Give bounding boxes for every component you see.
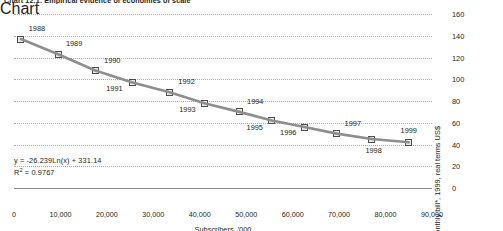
chart-title-number: Chart 12.1: xyxy=(4,0,42,4)
x-axis-tick-label: 0 xyxy=(12,210,16,219)
y-axis-tick-label: 40 xyxy=(452,140,478,149)
chart-title: Chart 12.1: Empirical evidence of econom… xyxy=(4,0,191,4)
x-axis-tick-label: 10,000 xyxy=(49,210,71,219)
y-axis-tick-label: 160 xyxy=(452,10,478,19)
x-axis-tick-label: 50,000 xyxy=(235,210,257,219)
y-axis-tick-label: 140 xyxy=(452,31,478,40)
chart-title-text: Empirical evidence of economies of scale xyxy=(44,0,190,4)
trendline-r-squared: R2 = 0.9767 xyxy=(14,166,102,178)
y-axis-tick-label: 100 xyxy=(452,75,478,84)
y-axis-tick-label: 60 xyxy=(452,118,478,127)
y-axis-tick-label: 0 xyxy=(452,184,478,193)
trendline-annotation: y = -26.239Ln(x) + 331.14 R2 = 0.9767 xyxy=(14,156,102,177)
trendline-path xyxy=(21,39,409,142)
x-axis-tick-label: 60,000 xyxy=(282,210,304,219)
y-axis-tick-label: 80 xyxy=(452,97,478,106)
y-axis-tick-label: 120 xyxy=(452,53,478,62)
y-axis-label: Av. monthly bill*, 1999, real terms US$ xyxy=(433,126,442,231)
x-axis-tick-label: 20,000 xyxy=(96,210,118,219)
x-axis-label: Subscribers, '000 xyxy=(14,225,432,231)
x-axis-tick-label: 40,000 xyxy=(189,210,211,219)
gridline xyxy=(14,188,432,189)
x-axis-tick-label: 70,000 xyxy=(328,210,350,219)
trendline-equation: y = -26.239Ln(x) + 331.14 xyxy=(14,156,102,166)
x-axis-tick-label: 30,000 xyxy=(142,210,164,219)
x-axis-tick-label: 80,000 xyxy=(375,210,397,219)
y-axis-tick-label: 20 xyxy=(452,162,478,171)
